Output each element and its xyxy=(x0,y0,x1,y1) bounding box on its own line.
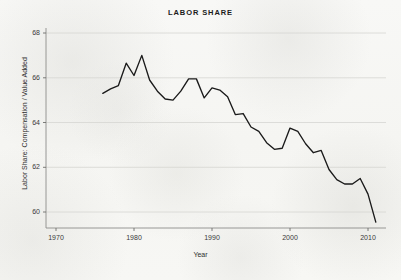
axis-lines xyxy=(46,28,386,228)
x-axis-title: Year xyxy=(0,251,401,258)
y-axis-title: Labor Share: Compensation / Value Added xyxy=(21,34,28,214)
data-line-labor-share xyxy=(103,55,376,222)
x-tick-label-2010: 2010 xyxy=(348,234,388,241)
x-tick-label-1980: 1980 xyxy=(114,234,154,241)
chart-figure: LABOR SHARE 68 66 xyxy=(0,0,401,280)
x-tick-label-1970: 1970 xyxy=(36,234,76,241)
x-tick-label-2000: 2000 xyxy=(270,234,310,241)
x-tick-label-1990: 1990 xyxy=(192,234,232,241)
gridlines xyxy=(46,33,386,212)
